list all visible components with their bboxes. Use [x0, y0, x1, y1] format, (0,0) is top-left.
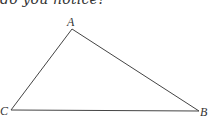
side-cb [11, 110, 199, 111]
vertex-label-a: A [66, 15, 75, 29]
side-ac [11, 29, 72, 110]
side-ab [72, 29, 199, 111]
vertex-label-c: C [0, 104, 9, 118]
triangle-diagram: A C B [0, 0, 208, 119]
vertex-label-b: B [200, 105, 208, 119]
